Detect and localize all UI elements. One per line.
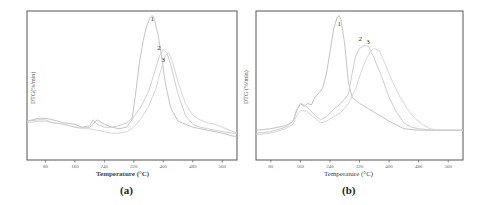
x-tick-label: 320 <box>130 164 138 169</box>
series-label-1: 1 <box>151 15 155 23</box>
x-axis-label-a: Temperature (°C) <box>96 170 149 178</box>
series-line-2 <box>27 50 237 134</box>
panel-b: 80160240320400480560123 DTG (%/min) Temp… <box>240 0 481 205</box>
series-line-3 <box>256 48 463 134</box>
panel-caption-b: (b) <box>342 184 355 196</box>
x-tick-label: 80 <box>43 164 49 169</box>
x-tick-label: 160 <box>297 164 305 169</box>
series-label-2: 2 <box>157 44 161 52</box>
series-line-1 <box>256 16 463 131</box>
series-label-3: 3 <box>366 38 370 46</box>
x-tick-label: 80 <box>268 164 274 169</box>
series-label-1: 1 <box>337 20 341 28</box>
panel-a: 80160240320400480560123 DTG(%/min) Tempe… <box>0 0 240 205</box>
x-tick-label: 240 <box>101 164 109 169</box>
x-tick-label: 560 <box>219 164 227 169</box>
x-tick-label: 240 <box>326 164 334 169</box>
x-tick-label: 560 <box>444 164 452 169</box>
x-tick-label: 480 <box>415 164 423 169</box>
x-tick-label: 400 <box>385 164 393 169</box>
plot-frame <box>256 11 463 160</box>
x-tick-label: 480 <box>189 164 197 169</box>
x-tick-label: 320 <box>356 164 364 169</box>
plot-frame <box>27 11 237 160</box>
x-tick-label: 160 <box>71 164 79 169</box>
panel-caption-a: (a) <box>120 184 133 196</box>
x-tick-label: 400 <box>160 164 168 169</box>
series-line-2 <box>256 45 463 133</box>
series-label-3: 3 <box>162 56 166 64</box>
x-axis-label-b: Temperature (°C) <box>324 170 373 178</box>
series-label-2: 2 <box>358 35 362 43</box>
y-axis-label-b: DTG (%/min) <box>243 70 249 104</box>
y-axis-label-a: DTG(%/min) <box>30 72 36 104</box>
